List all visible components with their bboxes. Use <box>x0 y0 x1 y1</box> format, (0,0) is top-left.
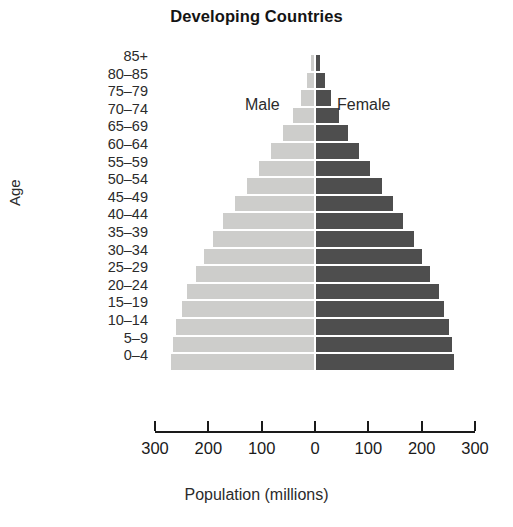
x-axis-tick-label: 300 <box>461 439 489 458</box>
legend-label-female: Female <box>337 96 390 114</box>
bar-male <box>173 337 314 353</box>
bar-female <box>316 143 359 159</box>
bar-female <box>316 284 439 300</box>
bar-male <box>213 231 314 247</box>
x-axis-tick-label: 200 <box>195 439 223 458</box>
bar-female <box>316 125 348 141</box>
bar-male <box>176 319 314 335</box>
bar-male <box>247 178 314 194</box>
bar-female <box>316 196 393 212</box>
bar-male <box>235 196 314 212</box>
x-axis-tick <box>367 421 369 431</box>
bar-male <box>259 161 314 177</box>
x-axis-tick <box>314 421 316 431</box>
bar-female <box>316 90 331 106</box>
bar-male <box>311 55 314 71</box>
x-axis-tick <box>474 421 476 431</box>
legend-label-male: Male <box>245 96 280 114</box>
bar-male <box>171 354 314 370</box>
x-axis-title: Population (millions) <box>0 486 513 504</box>
x-axis-tick-label: 100 <box>248 439 276 458</box>
x-axis-tick <box>261 421 263 431</box>
x-axis-tick-label: 0 <box>310 439 319 458</box>
bar-female <box>316 301 444 317</box>
bar-female <box>316 354 454 370</box>
bar-female <box>316 178 382 194</box>
bar-female <box>316 337 452 353</box>
bar-female <box>316 319 449 335</box>
x-axis-tick-label: 300 <box>141 439 169 458</box>
x-axis-tick <box>154 421 156 431</box>
bar-male <box>307 73 314 89</box>
population-pyramid-plot: 3002001000100200300 Male Female <box>0 0 513 527</box>
x-axis-tick <box>207 421 209 431</box>
bar-female <box>316 213 403 229</box>
x-axis-tick-label: 100 <box>355 439 383 458</box>
bar-male <box>223 213 314 229</box>
bar-female <box>316 108 339 124</box>
bar-male <box>283 125 314 141</box>
bar-female <box>316 249 422 265</box>
bar-male <box>187 284 314 300</box>
x-axis-line <box>155 431 475 433</box>
bar-male <box>271 143 314 159</box>
bar-male <box>196 266 314 282</box>
bar-female <box>316 73 325 89</box>
bar-female <box>316 231 414 247</box>
bar-female <box>316 266 430 282</box>
bar-male <box>301 90 314 106</box>
x-axis-tick-label: 200 <box>408 439 436 458</box>
x-axis-tick <box>421 421 423 431</box>
bar-male <box>293 108 314 124</box>
bar-male <box>182 301 314 317</box>
bar-female <box>316 161 370 177</box>
bar-female <box>316 55 320 71</box>
bar-male <box>204 249 314 265</box>
